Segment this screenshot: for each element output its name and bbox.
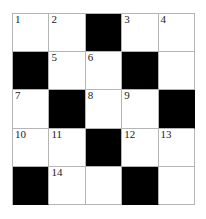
clue-number-2: 2: [51, 13, 57, 26]
grid-cell-r5c4-block: [122, 167, 158, 205]
grid-cell-r1c3-block: [86, 14, 122, 52]
grid-cell-r1c4-open[interactable]: 3: [122, 14, 158, 52]
grid-cell-r4c1-open[interactable]: 10: [13, 129, 49, 167]
grid-cell-r3c4-open[interactable]: 9: [122, 90, 158, 128]
clue-number-14: 14: [51, 166, 62, 179]
clue-number-1: 1: [15, 13, 21, 26]
grid-cell-r4c3-block: [86, 129, 122, 167]
grid-cell-r4c5-open[interactable]: 13: [159, 129, 195, 167]
grid-cell-r4c4-open[interactable]: 12: [122, 129, 158, 167]
crossword-grid: 1234567891011121314: [12, 13, 195, 205]
clue-number-9: 9: [124, 89, 130, 102]
grid-cell-r3c3-open[interactable]: 8: [86, 90, 122, 128]
grid-cell-r1c2-open[interactable]: 2: [49, 14, 85, 52]
crossword-puzzle: 1234567891011121314: [12, 13, 195, 205]
grid-cell-r5c3-open[interactable]: [86, 167, 122, 205]
grid-cell-r2c1-block: [13, 52, 49, 90]
grid-cell-r2c5-open[interactable]: [159, 52, 195, 90]
clue-number-13: 13: [161, 128, 172, 141]
grid-cell-r1c1-open[interactable]: 1: [13, 14, 49, 52]
clue-number-5: 5: [51, 51, 57, 64]
clue-number-10: 10: [15, 128, 26, 141]
clue-number-12: 12: [124, 128, 135, 141]
grid-cell-r4c2-open[interactable]: 11: [49, 129, 85, 167]
grid-cell-r3c5-block: [159, 90, 195, 128]
clue-number-8: 8: [88, 89, 94, 102]
clue-number-4: 4: [161, 13, 167, 26]
grid-cell-r2c4-block: [122, 52, 158, 90]
grid-cell-r2c3-open[interactable]: 6: [86, 52, 122, 90]
grid-cell-r5c1-block: [13, 167, 49, 205]
clue-number-3: 3: [124, 13, 130, 26]
grid-cell-r3c1-open[interactable]: 7: [13, 90, 49, 128]
grid-cell-r5c5-open[interactable]: [159, 167, 195, 205]
grid-cell-r3c2-block: [49, 90, 85, 128]
grid-cell-r1c5-open[interactable]: 4: [159, 14, 195, 52]
grid-cell-r2c2-open[interactable]: 5: [49, 52, 85, 90]
clue-number-7: 7: [15, 89, 21, 102]
clue-number-11: 11: [51, 128, 62, 141]
grid-cell-r5c2-open[interactable]: 14: [49, 167, 85, 205]
clue-number-6: 6: [88, 51, 94, 64]
